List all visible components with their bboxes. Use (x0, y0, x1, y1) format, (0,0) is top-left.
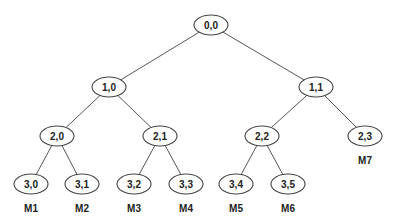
nodes-layer: 0,01,01,12,02,12,22,33,03,13,23,33,43,5 (14, 15, 382, 194)
tree-node: 3,2 (117, 174, 151, 194)
node-label: 2,3 (358, 131, 372, 142)
leaf-label: M7 (358, 155, 372, 166)
tree-node: 1,0 (92, 77, 126, 97)
node-label: 3,5 (281, 179, 295, 190)
node-label: 3,2 (127, 179, 141, 190)
tree-node: 2,3 (348, 126, 382, 146)
tree-node: 3,1 (65, 174, 99, 194)
node-label: 0,0 (204, 20, 218, 31)
tree-node: 2,0 (40, 126, 74, 146)
tree-node: 3,3 (169, 174, 203, 194)
tree-edge (109, 25, 211, 87)
node-label: 3,0 (24, 179, 38, 190)
tree-node: 3,5 (271, 174, 305, 194)
node-label: 1,1 (309, 82, 323, 93)
node-label: 3,3 (179, 179, 193, 190)
tree-diagram: 0,01,01,12,02,12,22,33,03,13,23,33,43,5 … (0, 0, 395, 223)
leaf-label: M5 (229, 203, 243, 214)
tree-node: 2,2 (245, 126, 279, 146)
node-label: 1,0 (102, 82, 116, 93)
tree-node: 0,0 (194, 15, 228, 35)
leaf-label: M4 (179, 203, 193, 214)
tree-node: 2,1 (143, 126, 177, 146)
node-label: 2,0 (50, 131, 64, 142)
edges-layer (31, 25, 365, 184)
tree-edge (211, 25, 316, 87)
leaf-label: M1 (24, 203, 38, 214)
node-label: 2,1 (153, 131, 167, 142)
node-label: 2,2 (255, 131, 269, 142)
node-label: 3,1 (75, 179, 89, 190)
node-label: 3,4 (229, 179, 243, 190)
tree-node: 3,4 (219, 174, 253, 194)
leaf-label: M2 (75, 203, 89, 214)
leaf-label: M3 (127, 203, 141, 214)
tree-node: 3,0 (14, 174, 48, 194)
tree-node: 1,1 (299, 77, 333, 97)
leaf-label: M6 (281, 203, 295, 214)
